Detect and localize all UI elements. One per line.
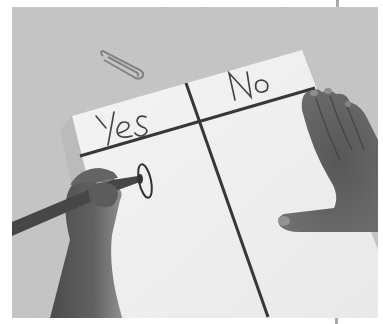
- photo: [0, 0, 383, 324]
- edge-tick-bottom: [335, 318, 338, 324]
- photo-frame: [0, 0, 383, 324]
- edge-tick-top: [336, 0, 339, 7]
- photo-content: [12, 7, 378, 318]
